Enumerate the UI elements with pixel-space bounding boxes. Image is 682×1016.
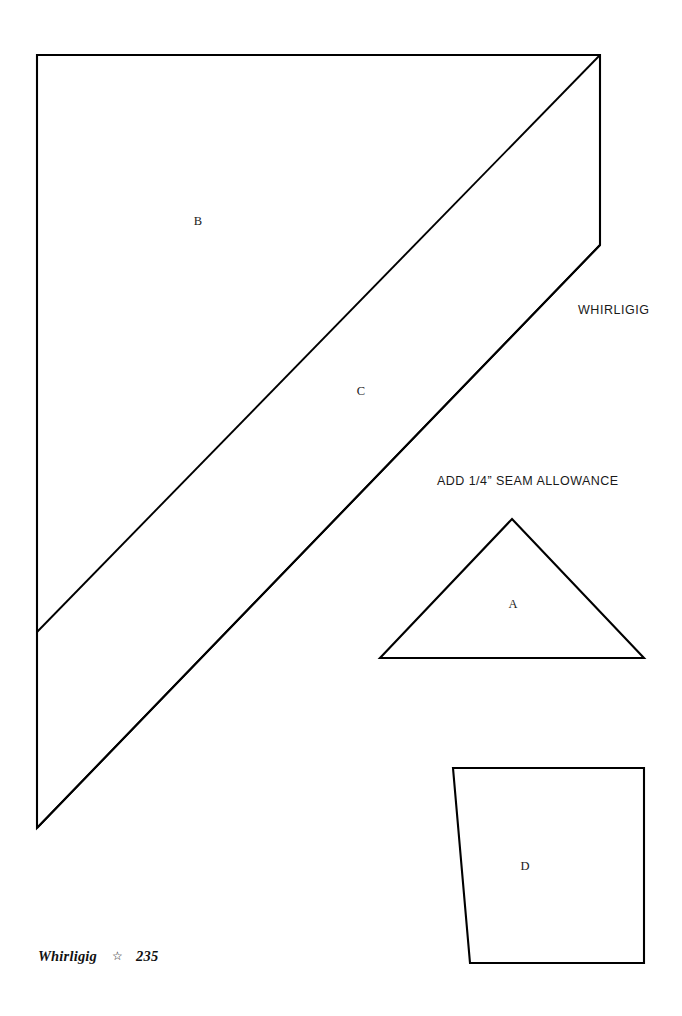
seam-allowance-note: ADD 1/4” SEAM ALLOWANCE: [437, 474, 618, 488]
footer-page-number: 235: [136, 948, 159, 965]
pattern-canvas: [0, 0, 682, 1016]
page-footer: Whirligig ☆ 235: [38, 948, 159, 965]
footer-book-title: Whirligig: [38, 948, 97, 965]
piece-divider-bc-upper: [37, 55, 600, 632]
piece-outline-d: [453, 768, 644, 963]
piece-outline-a: [380, 519, 644, 658]
star-icon: ☆: [97, 949, 136, 964]
block-title: WHIRLIGIG: [578, 303, 650, 317]
piece-label-c: C: [357, 384, 366, 399]
piece-outline-bc: [37, 55, 600, 828]
pattern-page: B C A D WHIRLIGIG ADD 1/4” SEAM ALLOWANC…: [0, 0, 682, 1016]
piece-divider-bc-lower: [37, 245, 600, 828]
piece-label-b: B: [194, 214, 203, 229]
piece-label-d: D: [520, 859, 529, 874]
piece-label-a: A: [508, 597, 517, 612]
